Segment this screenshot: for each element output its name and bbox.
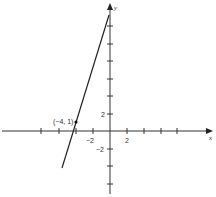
y-axis-label: y bbox=[113, 4, 118, 12]
y-tick-label-neg2: −2 bbox=[96, 146, 104, 153]
x-axis-label: x bbox=[208, 134, 213, 142]
y-tick-label-2: 2 bbox=[101, 111, 105, 118]
y-axis-arrow-icon bbox=[107, 3, 113, 10]
x-tick-label-neg2: −2 bbox=[86, 137, 94, 144]
point-marker bbox=[74, 120, 77, 123]
point-label: (−4, 1) bbox=[53, 118, 73, 126]
coordinate-plane: (−4, 1) −2 2 2 −2 x y bbox=[0, 0, 216, 197]
x-tick-label-2: 2 bbox=[125, 137, 129, 144]
